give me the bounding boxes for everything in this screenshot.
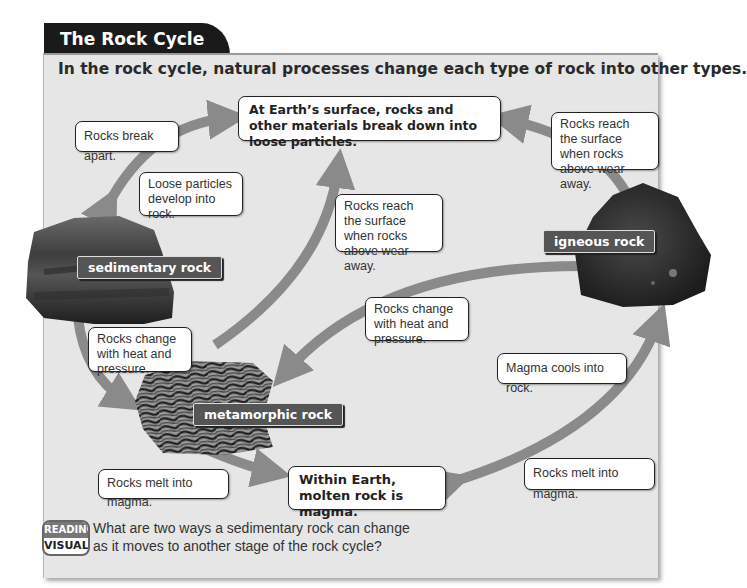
callout-break-apart: Rocks break apart. [75,121,179,152]
igneous-rock-label: igneous rock [543,230,655,253]
stage-surface-box: At Earth’s surface, rocks and other mate… [238,96,501,141]
callout-magma-cools: Magma cools into rock. [497,353,627,384]
stage-magma-box: Within Earth, molten rock is magma. [288,466,446,510]
reading-visuals-badge: READING VISUALS [42,520,90,556]
sedimentary-rock-label: sedimentary rock [77,256,222,279]
badge-visuals-text: VISUALS [44,538,88,554]
metamorphic-rock-label: metamorphic rock [193,403,343,426]
callout-loose-particles: Loose particles develop into rock. [139,172,243,216]
callout-melt-igneous: Rocks melt into magma. [524,458,655,490]
callout-melt-metamorphic: Rocks melt into magma. [98,469,229,499]
callout-change-heat-igneous: Rocks change with heat and pressure. [365,297,469,341]
reading-visuals-question: What are two ways a sedimentary rock can… [93,519,423,555]
callout-reach-surface-igneous: Rocks reach the surface when rocks above… [551,112,659,170]
badge-reading-text: READING [44,522,88,538]
callout-change-heat-sedimentary: Rocks change with heat and pressure. [88,327,192,372]
callout-reach-surface-metamorphic: Rocks reach the surface when rocks above… [335,194,443,252]
